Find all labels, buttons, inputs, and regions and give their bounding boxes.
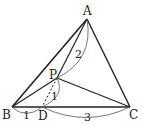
label-ap-length: 2 [75, 48, 82, 61]
label-point-b: B [2, 108, 11, 122]
label-pd-length: 1 [51, 90, 58, 103]
segment-ab [12, 19, 87, 107]
segment-ac [87, 19, 130, 107]
segment-cp [57, 78, 130, 107]
label-point-p: P [49, 68, 57, 82]
label-point-d: D [38, 109, 48, 123]
label-point-c: C [129, 108, 138, 122]
triangle-figure: 2 1 1 3 A B C P D [0, 0, 143, 125]
geometry-diagram: 2 1 1 3 A B C P D [0, 0, 143, 125]
label-point-a: A [82, 4, 92, 18]
label-dc-length: 3 [84, 111, 91, 124]
label-bd-length: 1 [23, 109, 30, 122]
